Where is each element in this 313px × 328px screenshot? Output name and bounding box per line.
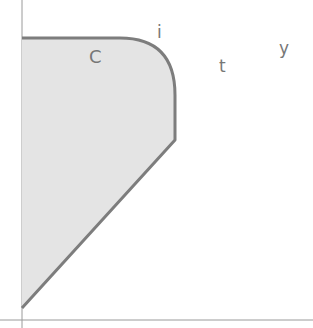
label-y: y <box>279 40 289 57</box>
label-i: i <box>157 24 162 41</box>
label-t: t <box>219 58 226 75</box>
diagram-canvas <box>0 0 313 328</box>
shaded-region <box>22 38 175 308</box>
label-c: C <box>89 48 102 66</box>
